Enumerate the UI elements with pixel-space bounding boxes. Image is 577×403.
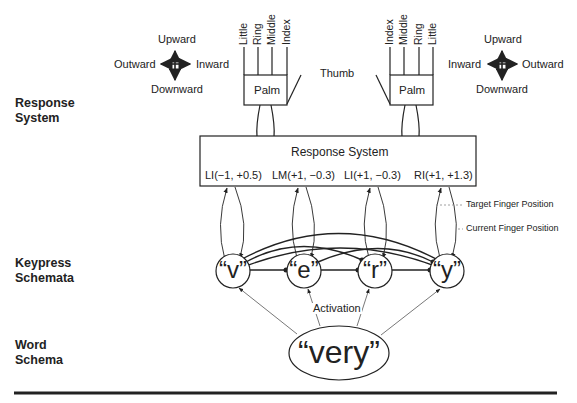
right-inward-label: Inward [448, 59, 481, 70]
response-box-title: Response System [291, 146, 388, 158]
finger-position-loops [220, 187, 456, 260]
target-right-index: RI(+1, +1.3) [414, 170, 473, 181]
word-node-very: “very” [289, 336, 389, 368]
keypress-node-y: “y” [427, 258, 467, 282]
left-outward-label: Outward [114, 59, 156, 70]
right-finger-ring: Ring [413, 23, 424, 45]
row-label-line: Schema [15, 353, 63, 368]
left-finger-ring: Ring [252, 23, 263, 45]
row-label-line: System [15, 111, 75, 126]
keypress-node-r: “r” [355, 258, 395, 282]
keypress-connections [244, 233, 438, 270]
row-label-line: Keypress [15, 256, 74, 271]
row-label-keypress-schemata: Keypress Schemata [15, 256, 74, 286]
right-finger-middle: Middle [398, 14, 409, 45]
target-left-index-2: LI(+1, −0.3) [344, 170, 401, 181]
right-up-label: Upward [484, 34, 522, 45]
activation-label: Activation [312, 303, 362, 314]
left-direction-cross-icon [161, 51, 190, 80]
left-palm-label: Palm [254, 85, 280, 97]
target-finger-position-label: Target Finger Position [466, 200, 554, 209]
keypress-node-e: “e” [284, 258, 324, 282]
left-down-label: Downward [151, 84, 203, 95]
current-finger-position-label: Current Finger Position [466, 224, 559, 233]
right-direction-cross-icon [488, 51, 517, 80]
left-finger-middle: Middle [266, 14, 277, 45]
left-finger-little: Little [238, 23, 249, 45]
thumb-label: Thumb [320, 68, 354, 79]
row-label-response-system: Response System [15, 96, 75, 126]
left-inward-label: Inward [196, 59, 229, 70]
right-palm-label: Palm [399, 85, 425, 97]
row-label-word-schema: Word Schema [15, 338, 63, 368]
row-label-line: Response [15, 96, 75, 111]
left-up-label: Upward [158, 34, 196, 45]
right-down-label: Downward [476, 84, 528, 95]
keypress-node-v: “v” [213, 258, 253, 282]
row-label-line: Word [15, 338, 63, 353]
left-finger-index: Index [281, 19, 292, 45]
row-label-line: Schemata [15, 271, 74, 286]
right-finger-index: Index [384, 19, 395, 45]
right-finger-little: Little [427, 23, 438, 45]
right-outward-label: Outward [522, 59, 564, 70]
target-left-index-1: LI(−1, +0.5) [205, 170, 262, 181]
target-left-middle: LM(+1, −0.3) [272, 170, 335, 181]
